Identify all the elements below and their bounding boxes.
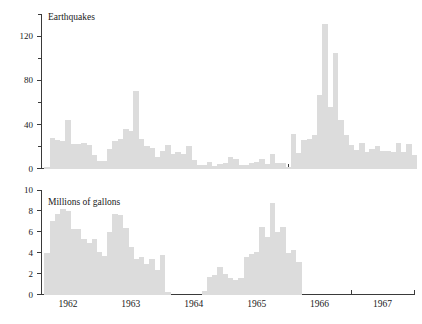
panel-title-gallons: Millions of gallons <box>48 197 121 207</box>
x-tick-label: 1967 <box>373 299 392 309</box>
bar <box>186 146 192 168</box>
bar <box>270 203 276 295</box>
bar <box>375 146 381 168</box>
bar <box>86 145 92 168</box>
bar <box>380 151 386 169</box>
bar <box>312 135 318 168</box>
bar <box>60 141 66 169</box>
bar <box>76 229 82 295</box>
bar <box>133 91 139 168</box>
bar <box>238 165 244 168</box>
bar <box>107 149 113 169</box>
bar <box>191 160 197 169</box>
bar <box>296 153 302 168</box>
bar <box>60 209 66 295</box>
bar <box>160 255 166 295</box>
bar <box>354 150 360 169</box>
bar <box>244 257 250 295</box>
bar <box>406 144 412 168</box>
bar <box>317 95 323 169</box>
bar <box>291 134 297 168</box>
bar <box>76 144 82 168</box>
bar <box>128 247 134 294</box>
bar <box>259 159 265 169</box>
bar-series-gallons <box>44 203 301 295</box>
bar <box>286 253 292 295</box>
bar <box>81 143 87 168</box>
x-tick-labels: 196219631964196519661967 <box>58 299 392 309</box>
bar <box>97 161 103 169</box>
bar <box>118 139 124 169</box>
bar <box>50 138 56 169</box>
bar <box>55 214 61 294</box>
bar <box>118 215 124 294</box>
y-tick-label: 2 <box>29 269 34 279</box>
bar <box>385 151 391 169</box>
bar <box>338 120 344 169</box>
bar <box>128 131 134 169</box>
bar <box>233 159 239 169</box>
bar <box>223 274 229 295</box>
y-tick-label: 80 <box>24 75 34 85</box>
bar <box>207 277 213 295</box>
bar <box>92 239 98 294</box>
bar <box>296 262 302 294</box>
x-tick-label: 1965 <box>247 299 266 309</box>
bar <box>265 237 271 294</box>
bar <box>50 221 56 294</box>
bar <box>249 163 255 169</box>
bar <box>181 154 187 168</box>
figure-container: Earthquakes 04080120 Millions of gallons… <box>0 0 422 324</box>
bar <box>254 252 260 295</box>
bar <box>401 152 407 169</box>
bar <box>228 278 234 295</box>
bar <box>411 155 417 168</box>
bar <box>301 140 307 169</box>
y-tick-label: 0 <box>29 164 34 174</box>
bar <box>307 139 313 169</box>
y-axis-gallons: 0246810 <box>24 185 42 300</box>
bar <box>270 154 276 168</box>
bar <box>202 291 208 294</box>
bar <box>333 53 339 169</box>
bar <box>144 146 150 168</box>
bar <box>65 211 71 295</box>
bar <box>165 145 171 168</box>
bar <box>348 145 354 168</box>
panel-title-earthquakes: Earthquakes <box>48 12 95 22</box>
bar <box>291 250 297 295</box>
bar <box>170 154 176 168</box>
bar <box>343 135 349 168</box>
y-tick-label: 10 <box>24 185 34 195</box>
bar <box>165 292 171 294</box>
bar <box>123 129 129 169</box>
bar <box>286 167 292 168</box>
bar <box>364 152 370 169</box>
y-tick-label: 4 <box>29 248 34 258</box>
bar <box>112 214 118 294</box>
y-tick-group-bottom: 0246810 <box>24 185 42 300</box>
bar <box>322 24 328 169</box>
bar <box>71 144 77 168</box>
bar <box>123 228 129 295</box>
bar <box>207 162 213 169</box>
bar <box>212 275 218 295</box>
bar <box>396 143 402 168</box>
y-tick-label: 0 <box>29 290 34 300</box>
bar <box>228 157 234 168</box>
bar <box>175 152 181 169</box>
y-tick-label: 6 <box>29 227 34 237</box>
bar <box>139 257 145 295</box>
bar <box>65 120 71 169</box>
bar <box>44 167 50 168</box>
bar <box>92 155 98 168</box>
bar <box>154 157 160 168</box>
bar <box>217 164 223 168</box>
bar <box>144 264 150 294</box>
bar <box>149 148 155 169</box>
bar <box>217 267 223 294</box>
bar <box>196 165 202 168</box>
bar <box>81 239 87 294</box>
bar <box>212 166 218 168</box>
panel-gallons: Millions of gallons 0246810 196219631964… <box>24 185 414 308</box>
